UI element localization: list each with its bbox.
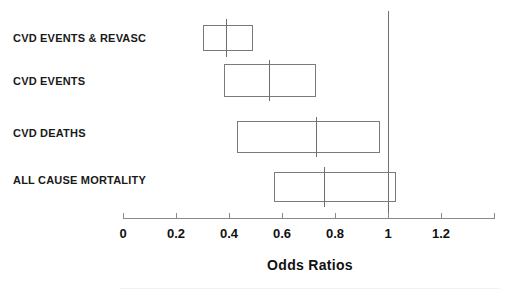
x-axis-tick <box>282 213 283 219</box>
x-axis-line <box>123 218 494 219</box>
x-axis-tick-label: 0 <box>119 226 126 241</box>
x-axis-tick-label: 1 <box>384 226 391 241</box>
ci-box-all-cause-mortality <box>274 172 396 202</box>
ci-box-cvd-events <box>224 64 317 97</box>
ci-box-cvd-deaths <box>237 121 380 153</box>
point-estimate-tick-cvd-events <box>269 60 270 101</box>
point-estimate-tick-all-cause-mortality <box>324 167 325 207</box>
plot-area: 00.20.40.60.811.2 Odds Ratios <box>0 0 513 292</box>
x-axis-tick <box>388 213 389 219</box>
x-axis-end-tick <box>494 213 495 219</box>
x-axis-tick-label: 0.6 <box>273 226 291 241</box>
x-axis-tick <box>335 213 336 219</box>
point-estimate-tick-cvd-events-revasc <box>226 19 227 57</box>
x-axis-tick <box>441 213 442 219</box>
x-axis-tick-label: 0.4 <box>220 226 238 241</box>
page-artifact <box>120 288 500 289</box>
odds-ratio-chart: CVD EVENTS & REVASC CVD EVENTS CVD DEATH… <box>0 0 513 292</box>
x-axis-tick-label: 1.2 <box>432 226 450 241</box>
x-axis-tick-label: 0.2 <box>167 226 185 241</box>
ci-box-cvd-events-revasc <box>203 25 253 51</box>
x-axis-tick-label: 0.8 <box>326 226 344 241</box>
x-axis-title: Odds Ratios <box>267 257 353 273</box>
x-axis-tick <box>229 213 230 219</box>
x-axis-tick <box>123 213 124 219</box>
x-axis-tick <box>176 213 177 219</box>
point-estimate-tick-cvd-deaths <box>316 117 317 157</box>
